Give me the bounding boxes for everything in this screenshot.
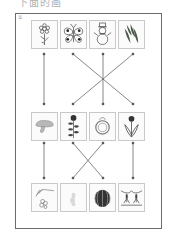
card-rice-seedlings[interactable]: [118, 183, 145, 212]
card-snowman[interactable]: [89, 20, 116, 49]
wreath-icon: [91, 114, 114, 139]
card-faded-leaf[interactable]: [60, 183, 87, 212]
rice-seedling-icon: [120, 185, 143, 210]
watermelon-icon: [91, 185, 114, 210]
card-wreath[interactable]: [89, 112, 116, 141]
card-wheat-harvest[interactable]: [31, 183, 58, 212]
pine-branch-icon: [120, 22, 143, 47]
snowman-icon: [91, 22, 114, 47]
flower-icon: [33, 22, 56, 47]
card-flower[interactable]: [31, 20, 58, 49]
butterfly-icon: [62, 22, 85, 47]
card-watermelon[interactable]: [89, 183, 116, 212]
card-pine-branch[interactable]: [118, 20, 145, 49]
exercise-number: ①: [18, 14, 22, 20]
card-tulip[interactable]: [118, 112, 145, 141]
card-flower-stalk[interactable]: [60, 112, 87, 141]
card-butterfly[interactable]: [60, 20, 87, 49]
wheat-icon: [33, 185, 56, 210]
instruction-header: 下面的画: [18, 0, 62, 9]
flower-stalk-icon: [62, 114, 85, 139]
tulip-icon: [120, 114, 143, 139]
card-mushroom[interactable]: [31, 112, 58, 141]
leaf-icon: [62, 185, 85, 210]
mushroom-icon: [33, 114, 56, 139]
